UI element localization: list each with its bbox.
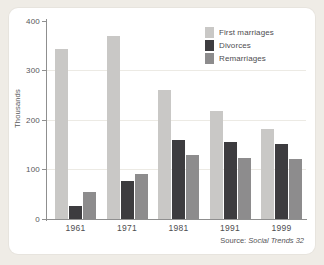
legend-swatch-icon [205, 53, 214, 64]
bar-group [158, 21, 199, 219]
bar-chart: 400 300 200 100 0 Thousands 196119711981… [9, 8, 315, 254]
y-axis-tick-label: 100 [14, 165, 40, 174]
legend-swatch-icon [205, 40, 214, 51]
bar[interactable] [289, 159, 302, 219]
legend-label: First marriages [219, 28, 274, 37]
bar[interactable] [275, 144, 288, 219]
bar[interactable] [121, 181, 134, 219]
legend-item[interactable]: Divorces [205, 40, 274, 51]
bar[interactable] [261, 129, 274, 219]
bar[interactable] [172, 140, 185, 219]
x-axis-tick-label: 1999 [252, 223, 312, 233]
legend-swatch-icon [205, 27, 214, 38]
bar[interactable] [186, 155, 199, 219]
bar-group [55, 21, 96, 219]
legend-item[interactable]: Remarriages [205, 53, 274, 64]
legend-label: Divorces [219, 41, 251, 50]
y-axis-tick-label: 0 [14, 215, 40, 224]
y-axis-title: Thousands [13, 79, 22, 139]
bar[interactable] [238, 158, 251, 219]
bar[interactable] [135, 174, 148, 219]
chart-card: 400 300 200 100 0 Thousands 196119711981… [9, 8, 315, 254]
bar[interactable] [55, 49, 68, 219]
legend-label: Remarriages [219, 54, 266, 63]
bar[interactable] [224, 142, 237, 219]
chart-legend: First marriagesDivorcesRemarriages [205, 27, 274, 66]
bar[interactable] [158, 90, 171, 219]
bar[interactable] [69, 206, 82, 219]
y-axis-tick-label: 300 [14, 66, 40, 75]
legend-item[interactable]: First marriages [205, 27, 274, 38]
x-axis-line [46, 219, 307, 220]
source-note: Source: Social Trends 32 [220, 236, 304, 245]
source-label: Source: [220, 236, 246, 245]
source-publication: Social Trends 32 [248, 236, 304, 245]
bar[interactable] [107, 36, 120, 219]
bar[interactable] [210, 111, 223, 219]
bar-group [107, 21, 148, 219]
bar[interactable] [83, 192, 96, 219]
y-axis-tick-label: 400 [14, 17, 40, 26]
